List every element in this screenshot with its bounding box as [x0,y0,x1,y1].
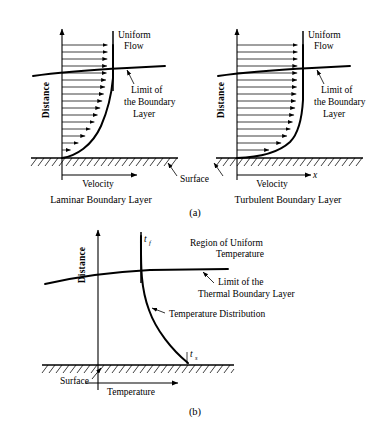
surface-temperature-symbol: t s [190,349,198,361]
uniform-flow-label-line2-laminar: Flow [124,41,144,51]
panel-a-laminar: Distance Velocity Uniform Flow Limit of … [31,29,178,205]
fluid-temp-subscript: f [149,239,152,246]
boundary-layer-limit-laminar [33,66,165,76]
panel-a-turbulent: Distance Velocity x Uniform Flow Limit o… [216,29,366,205]
surface-temp-subscript: s [195,354,198,361]
surface-label-panel-b: Surface [60,376,89,386]
limit-callout-leader-turbulent [317,70,324,84]
velocity-profile-arrows-laminar [62,45,108,150]
temperature-distribution-label: Temperature Distribution [169,309,265,319]
velocity-axis-label-turbulent: Velocity [256,179,288,189]
uniform-flow-label-line1-turbulent: Uniform [308,30,341,40]
region-uniform-temp-line2: Temperature [216,249,264,259]
thermal-limit-leader [203,272,214,283]
limit-callout-leader-laminar [127,70,134,84]
boundary-layer-limit-turbulent [218,66,350,76]
limit-label-line2-turbulent: the Boundary [314,97,366,107]
temp-distribution-leader [152,308,165,313]
surface-hatching-thermal [42,365,234,373]
surface-temp-letter: t [190,349,193,359]
fluid-temperature-symbol: t f [144,234,152,246]
caption-turbulent: Turbulent Boundary Layer [235,194,343,205]
surface-hatching-turbulent [216,158,363,166]
surface-label-panel-a: Surface [180,174,209,184]
laminar-velocity-profile-curve [62,45,113,158]
limit-label-line1-laminar: Limit of [131,85,163,95]
thermal-boundary-layer-limit [45,269,228,284]
panel-b-thermal: t f t s Distance Temperature Region of U… [42,230,295,397]
thermal-limit-label-line2: Thermal Boundary Layer [198,289,295,299]
temperature-axis-label-thermal: Temperature [107,387,155,397]
surface-callout-panel-a: Surface [168,163,223,184]
region-uniform-temp-line1: Region of Uniform [190,238,263,248]
uniform-flow-label-line1-laminar: Uniform [118,30,151,40]
distance-axis-label-thermal: Distance [77,247,87,283]
velocity-profile-arrows-turbulent [237,45,298,150]
thermal-limit-label-line1: Limit of the [218,277,263,287]
turbulent-velocity-profile-curve [237,45,303,158]
distance-axis-label-turbulent: Distance [216,82,226,118]
panel-b-id: (b) [189,406,202,418]
limit-label-line3-laminar: Layer [133,109,156,119]
caption-laminar: Laminar Boundary Layer [50,194,152,205]
surface-hatching-laminar [31,158,178,166]
distance-axis-label-laminar: Distance [41,82,51,118]
uniform-flow-label-line2-turbulent: Flow [314,41,334,51]
limit-label-line1-turbulent: Limit of [321,85,353,95]
velocity-axis-label-laminar: Velocity [82,179,114,189]
panel-a-id: (a) [189,207,201,219]
figure-canvas: Distance Velocity Uniform Flow Limit of … [0,0,390,425]
boundary-layer-figure: Distance Velocity Uniform Flow Limit of … [0,0,390,425]
x-axis-symbol-turbulent: x [312,170,318,180]
fluid-temp-letter: t [144,234,147,244]
temperature-distribution-curve [141,236,188,363]
limit-label-line3-turbulent: Layer [323,109,346,119]
limit-label-line2-laminar: the Boundary [124,97,176,107]
